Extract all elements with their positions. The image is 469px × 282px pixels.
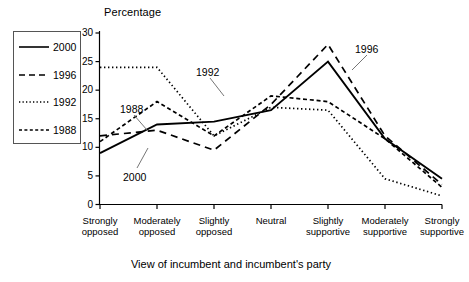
series-line-1992 (100, 67, 442, 196)
x-category-label: Stronglysupportive (404, 215, 469, 237)
y-tick-label: 30 (72, 27, 93, 38)
chart-axes (96, 31, 443, 209)
x-axis-title: View of incumbent and incumbent's party (0, 258, 462, 270)
series-annotation-1996: 1996 (355, 43, 378, 55)
y-tick-label: 15 (72, 113, 93, 124)
y-tick-label: 20 (72, 84, 93, 95)
series-line-2000 (100, 62, 442, 179)
y-tick-label: 25 (72, 56, 93, 67)
y-tick-label: 0 (72, 199, 93, 210)
series-annotation-1988: 1988 (120, 103, 143, 115)
series-line-1996 (100, 44, 442, 184)
series-annotation-2000: 2000 (123, 171, 146, 183)
y-tick-label: 10 (72, 141, 93, 152)
series-lines (100, 44, 442, 196)
annotation-leaders (134, 55, 367, 168)
y-tick-label: 5 (72, 170, 93, 181)
series-annotation-1992: 1992 (196, 66, 219, 78)
